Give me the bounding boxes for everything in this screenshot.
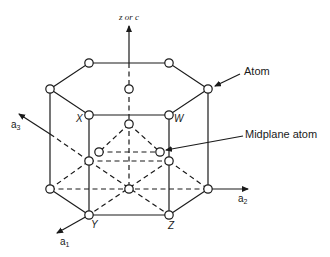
a3-axis-label: a3 xyxy=(11,119,21,131)
midplane-atom-left xyxy=(95,148,103,156)
atom-bottom-y xyxy=(85,211,93,219)
midplane-atom-back xyxy=(125,120,133,128)
midplane-atom-right xyxy=(156,148,164,156)
vertex-label-w: W xyxy=(174,113,185,124)
atom-top-right xyxy=(204,85,212,93)
atom-bottom-left xyxy=(46,185,54,193)
z-axis-label: z or c xyxy=(118,12,139,22)
atom-top-left xyxy=(46,85,54,93)
a2-axis-label: a2 xyxy=(238,193,248,205)
atom-bottom-right xyxy=(204,185,212,193)
a1-axis-label: a1 xyxy=(60,236,70,248)
callout-midplane-atom-label: Midplane atom xyxy=(245,128,317,140)
callout-leaders xyxy=(166,74,243,150)
atom-top-back-right xyxy=(165,59,173,67)
atom-bottom-center xyxy=(125,185,133,193)
atom-bottom-back-left xyxy=(85,157,93,165)
atom-top-w xyxy=(165,111,173,119)
labels: z or c a3 a1 a2 X W Y Z Atom Midplane at… xyxy=(11,12,317,248)
vertex-label-y: Y xyxy=(91,219,99,230)
callout-atom-label: Atom xyxy=(244,65,270,77)
atom-bottom-z xyxy=(165,211,173,219)
vertex-label-x: X xyxy=(75,113,83,124)
hcp-unit-cell-diagram: z or c a3 a1 a2 X W Y Z Atom Midplane at… xyxy=(0,0,330,257)
atom-top-back-left xyxy=(85,59,93,67)
axes xyxy=(19,26,248,233)
vertex-label-z: Z xyxy=(167,220,175,231)
atom-top-x xyxy=(85,111,93,119)
a1-axis xyxy=(57,215,89,233)
atom-top-center xyxy=(125,85,133,93)
atom-bottom-back-right xyxy=(165,157,173,165)
a3-axis xyxy=(19,114,50,134)
